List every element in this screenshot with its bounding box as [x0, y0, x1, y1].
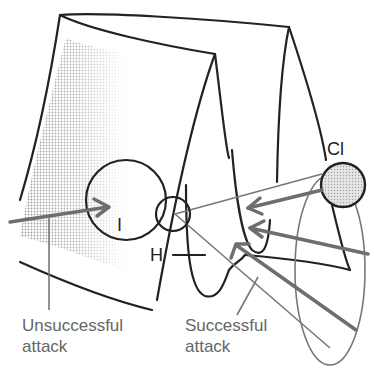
energy-surface-diagram: I H Cl	[0, 0, 391, 368]
unsuccessful-label-line2: attack	[22, 337, 68, 356]
successful-label-line1: Successful	[185, 316, 267, 335]
successful-label-line2: attack	[185, 337, 231, 356]
unsuccessful-label-line1: Unsuccessful	[22, 316, 123, 335]
chlorine-label: Cl	[327, 139, 344, 159]
iodine-label: I	[117, 215, 122, 235]
unsuccessful-attack-label: Unsuccessful attack	[22, 316, 123, 356]
successful-attack-label: Successful attack	[185, 316, 267, 356]
hydrogen-label: H	[150, 245, 163, 265]
chlorine-atom: Cl	[321, 139, 365, 207]
